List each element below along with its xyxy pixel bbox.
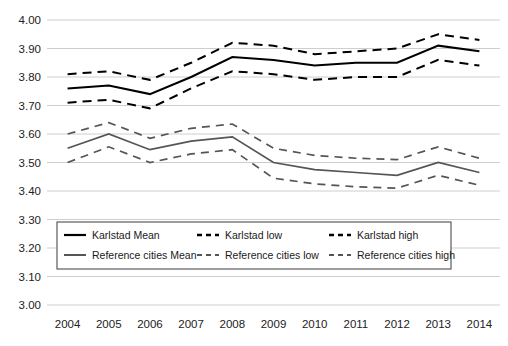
y-tick-label: 3.80 bbox=[19, 71, 41, 83]
chart-background bbox=[0, 0, 508, 346]
y-tick-label: 3.10 bbox=[19, 271, 41, 283]
y-tick-label: 3.20 bbox=[19, 242, 41, 254]
legend-label-karlstad-high: Karlstad high bbox=[357, 229, 418, 241]
x-tick-label: 2008 bbox=[220, 318, 246, 330]
y-tick-label: 3.60 bbox=[19, 128, 41, 140]
y-tick-label: 3.70 bbox=[19, 100, 41, 112]
legend-label-reference-cities-high: Reference cities high bbox=[357, 249, 455, 261]
chart-canvas: 4.003.903.803.703.603.503.403.303.203.10… bbox=[0, 0, 508, 346]
x-tick-label: 2011 bbox=[343, 318, 368, 330]
y-tick-label: 3.90 bbox=[19, 43, 41, 55]
x-tick-label: 2005 bbox=[96, 318, 122, 330]
legend-label-karlstad-low: Karlstad low bbox=[225, 229, 283, 241]
x-tick-label: 2004 bbox=[55, 318, 81, 330]
x-tick-label: 2009 bbox=[261, 318, 287, 330]
x-tick-label: 2010 bbox=[302, 318, 328, 330]
chart-legend: Karlstad MeanKarlstad lowKarlstad highRe… bbox=[57, 222, 455, 269]
y-tick-label: 3.40 bbox=[19, 185, 41, 197]
x-tick-label: 2012 bbox=[384, 318, 410, 330]
legend-label-reference-cities-mean: Reference cities Mean bbox=[92, 249, 197, 261]
x-tick-label: 2006 bbox=[137, 318, 163, 330]
y-tick-label: 4.00 bbox=[19, 14, 41, 26]
y-tick-label: 3.30 bbox=[19, 214, 41, 226]
legend-label-reference-cities-low: Reference cities low bbox=[225, 249, 319, 261]
x-tick-label: 2007 bbox=[178, 318, 204, 330]
legend-label-karlstad-mean: Karlstad Mean bbox=[92, 229, 160, 241]
y-tick-label: 3.00 bbox=[19, 299, 41, 311]
x-axis-tick-labels: 2004200520062007200820092010201120122013… bbox=[55, 318, 493, 330]
line-chart: 4.003.903.803.703.603.503.403.303.203.10… bbox=[0, 0, 508, 346]
x-tick-label: 2013 bbox=[425, 318, 451, 330]
y-tick-label: 3.50 bbox=[19, 157, 41, 169]
x-tick-label: 2014 bbox=[467, 318, 493, 330]
